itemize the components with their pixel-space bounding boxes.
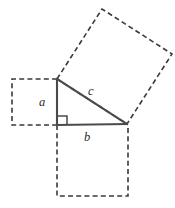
square-on-leg-b — [57, 125, 128, 196]
geometry-canvas — [0, 0, 175, 208]
pythagorean-theorem-figure: a c b — [0, 0, 175, 208]
square-on-hypotenuse-c — [57, 9, 172, 124]
right-angle-marker-icon — [58, 116, 67, 125]
label-hypotenuse-c: c — [88, 85, 94, 98]
square-on-leg-a — [12, 79, 57, 125]
label-leg-a: a — [39, 96, 45, 109]
label-leg-b: b — [84, 131, 90, 144]
